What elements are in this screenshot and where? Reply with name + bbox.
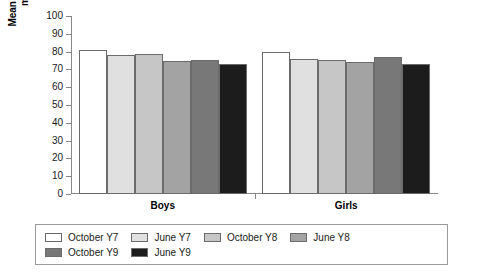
legend-swatch-icon xyxy=(131,248,148,257)
legend-item-label: October Y8 xyxy=(227,231,277,244)
bar xyxy=(262,52,290,194)
legend-item[interactable]: June Y7 xyxy=(131,230,191,245)
bar xyxy=(374,57,402,194)
y-axis-title-line-1: Mean score as a per cent of xyxy=(7,0,18,27)
y-axis-tick-label: 20 xyxy=(52,151,63,164)
bar xyxy=(290,59,318,194)
legend-swatch-icon xyxy=(45,248,62,257)
y-axis-tick-label: 60 xyxy=(52,80,63,93)
legend-item-label: June Y7 xyxy=(154,231,191,244)
bar xyxy=(191,60,219,194)
y-axis-tick-mark xyxy=(66,158,71,159)
legend-swatch-icon xyxy=(290,233,307,242)
plot-area: 1009080706050403020100 BoysGirls xyxy=(71,16,438,194)
legend-item[interactable]: June Y8 xyxy=(290,230,350,245)
legend-item-label: June Y8 xyxy=(313,231,350,244)
y-axis-tick-label: 100 xyxy=(46,9,63,22)
x-axis-category-label: Boys xyxy=(71,199,255,212)
bar xyxy=(219,64,247,194)
bar xyxy=(135,54,163,194)
legend-swatch-icon xyxy=(204,233,221,242)
legend: October Y7June Y7October Y8June Y8Octobe… xyxy=(35,224,448,265)
legend-item-label: June Y9 xyxy=(154,246,191,259)
legend-items: October Y7June Y7October Y8June Y8Octobe… xyxy=(45,230,447,260)
y-axis-tick-label: 50 xyxy=(52,98,63,111)
bar xyxy=(402,64,430,194)
y-axis-tick-mark xyxy=(66,194,71,195)
y-axis-tick-label: 30 xyxy=(52,134,63,147)
legend-item[interactable]: October Y7 xyxy=(45,230,118,245)
y-axis-tick-mark xyxy=(66,16,71,17)
y-axis-tick-mark xyxy=(66,34,71,35)
bar xyxy=(346,62,374,194)
y-axis-tick-mark xyxy=(66,105,71,106)
bar xyxy=(318,60,346,194)
bar xyxy=(163,61,191,195)
y-axis-tick-mark xyxy=(66,123,71,124)
legend-swatch-icon xyxy=(45,233,62,242)
legend-item-label: October Y9 xyxy=(68,246,118,259)
y-axis-tick-label: 40 xyxy=(52,116,63,129)
y-axis-tick-label: 80 xyxy=(52,45,63,58)
x-axis-group-separator-tick xyxy=(255,194,256,199)
legend-item-label: October Y7 xyxy=(68,231,118,244)
y-axis-title: Mean score as a per cent of maximum poss… xyxy=(2,0,36,50)
y-axis-tick-label: 10 xyxy=(52,169,63,182)
y-axis-tick-mark xyxy=(66,141,71,142)
y-axis-line xyxy=(71,16,72,194)
y-axis-tick-label: 0 xyxy=(57,187,63,200)
y-axis-tick-mark xyxy=(66,176,71,177)
y-axis-tick-mark xyxy=(66,52,71,53)
x-axis-category-label: Girls xyxy=(255,199,439,212)
bar xyxy=(107,55,135,194)
y-axis-tick-mark xyxy=(66,87,71,88)
y-axis-tick-label: 70 xyxy=(52,62,63,75)
bar-chart-figure: Mean score as a per cent of maximum poss… xyxy=(0,0,487,278)
legend-item[interactable]: October Y9 xyxy=(45,245,118,260)
y-axis-title-text: Mean score as a per cent of maximum poss… xyxy=(7,0,31,27)
y-axis-tick-label: 90 xyxy=(52,27,63,40)
bar xyxy=(79,50,107,194)
legend-swatch-icon xyxy=(131,233,148,242)
y-axis-tick-mark xyxy=(66,69,71,70)
y-axis-title-line-2: maximum possible xyxy=(19,0,30,6)
legend-item[interactable]: October Y8 xyxy=(204,230,277,245)
legend-item[interactable]: June Y9 xyxy=(131,245,191,260)
